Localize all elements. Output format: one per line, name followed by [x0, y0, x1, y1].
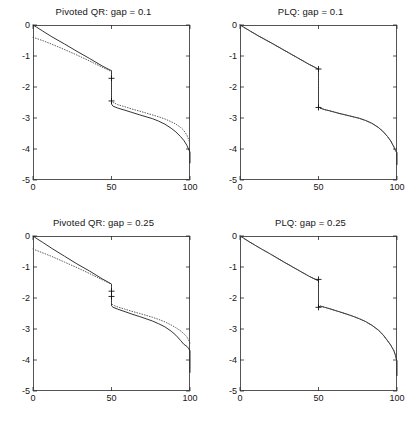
plus-marker-icon [109, 293, 115, 299]
y-axis-tick-label: 0 [232, 20, 237, 30]
data-series-solid [240, 25, 397, 165]
plot-area: 0-1-2-3-4-5050100 [33, 236, 190, 391]
x-axis-tick-label: 0 [30, 393, 35, 403]
plot-svg [33, 25, 190, 180]
y-axis-tick-label: -1 [229, 51, 237, 61]
subplot-title: PLQ: gap = 0.1 [207, 6, 414, 17]
x-axis-tick-label: 100 [389, 182, 404, 192]
plus-marker-icon [316, 104, 322, 110]
y-axis-tick-label: -5 [229, 175, 237, 185]
x-axis-tick-label: 50 [313, 182, 323, 192]
y-axis-tick-label: -4 [22, 144, 30, 154]
y-axis-tick-label: -5 [229, 386, 237, 396]
subplot-plq-gap-0.1: PLQ: gap = 0.10-1-2-3-4-5050100 [207, 0, 414, 211]
axis-frame [240, 236, 396, 390]
subplot-title: PLQ: gap = 0.25 [207, 217, 414, 228]
data-series-dotted [33, 37, 190, 142]
y-axis-tick-label: -1 [229, 262, 237, 272]
x-axis-tick-label: 0 [30, 182, 35, 192]
x-axis-tick-label: 100 [182, 393, 197, 403]
plus-marker-icon [109, 75, 115, 81]
figure-canvas: Pivoted QR: gap = 0.10-1-2-3-4-5050100PL… [0, 0, 414, 423]
y-axis-tick-label: -5 [22, 175, 30, 185]
y-axis-tick-label: -2 [22, 82, 30, 92]
plot-area: 0-1-2-3-4-5050100 [240, 236, 397, 391]
x-axis-tick-label: 50 [106, 393, 116, 403]
y-axis-tick-label: -3 [22, 324, 30, 334]
x-axis-tick-label: 0 [237, 182, 242, 192]
y-axis-tick-label: -2 [229, 293, 237, 303]
y-axis-tick-label: -3 [229, 113, 237, 123]
subplot-plq-gap-0.25: PLQ: gap = 0.250-1-2-3-4-5050100 [207, 211, 414, 422]
x-axis-tick-label: 50 [106, 182, 116, 192]
subplot-title: Pivoted QR: gap = 0.25 [0, 217, 207, 228]
y-axis-tick-label: -2 [229, 82, 237, 92]
plus-marker-icon [316, 304, 322, 310]
y-axis-tick-label: 0 [25, 231, 30, 241]
y-axis-tick-label: 0 [25, 20, 30, 30]
y-axis-tick-label: -4 [229, 144, 237, 154]
y-axis-tick-label: -5 [22, 386, 30, 396]
axis-frame [33, 236, 189, 390]
subplot-pivoted-qr-gap-0.1: Pivoted QR: gap = 0.10-1-2-3-4-5050100 [0, 0, 207, 211]
y-axis-tick-label: 0 [232, 231, 237, 241]
subplot-title: Pivoted QR: gap = 0.1 [0, 6, 207, 17]
data-series-solid [33, 236, 190, 372]
x-axis-tick-label: 100 [182, 182, 197, 192]
plot-svg [33, 236, 190, 391]
y-axis-tick-label: -3 [22, 113, 30, 123]
y-axis-tick-label: -1 [22, 51, 30, 61]
data-series-solid [33, 25, 190, 163]
subplot-pivoted-qr-gap-0.25: Pivoted QR: gap = 0.250-1-2-3-4-5050100 [0, 211, 207, 422]
x-axis-tick-label: 50 [313, 393, 323, 403]
plot-svg [240, 236, 397, 391]
plus-marker-icon [316, 66, 322, 72]
plus-marker-icon [316, 276, 322, 282]
data-series-dotted [240, 25, 397, 153]
plot-area: 0-1-2-3-4-5050100 [240, 25, 397, 180]
x-axis-tick-label: 0 [237, 393, 242, 403]
y-axis-tick-label: -4 [229, 355, 237, 365]
y-axis-tick-label: -1 [22, 262, 30, 272]
plot-area: 0-1-2-3-4-5050100 [33, 25, 190, 180]
plus-marker-icon [109, 288, 115, 294]
y-axis-tick-label: -2 [22, 293, 30, 303]
plot-svg [240, 25, 397, 180]
y-axis-tick-label: -4 [22, 355, 30, 365]
y-axis-tick-label: -3 [229, 324, 237, 334]
x-axis-tick-label: 100 [389, 393, 404, 403]
